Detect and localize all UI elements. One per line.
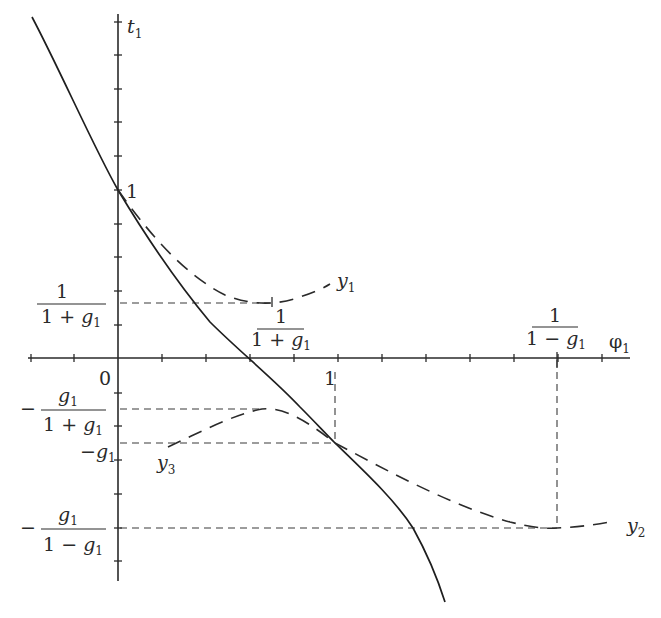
label-neg-g: −g1 — [80, 440, 116, 465]
y-unit-label: 1 — [126, 180, 138, 202]
curve-label-y2: y2 — [626, 514, 645, 540]
curve-t1-solid — [32, 17, 445, 602]
label-one-over-one-plus-g-left: 1 1 + g1 — [37, 280, 106, 330]
svg-text:g1: g1 — [58, 384, 78, 409]
svg-text:1 − g1: 1 − g1 — [526, 327, 586, 352]
svg-text:g1: g1 — [58, 503, 78, 528]
svg-text:−g1: −g1 — [80, 440, 116, 465]
svg-text:−: − — [20, 397, 36, 419]
svg-text:1: 1 — [275, 305, 287, 327]
origin-label: 0 — [99, 367, 111, 389]
svg-text:1 + g1: 1 + g1 — [251, 328, 311, 353]
svg-text:1 + g1: 1 + g1 — [41, 305, 101, 330]
x-unit-label: 1 — [324, 367, 336, 389]
label-neg-g-over-one-minus-g: − g1 1 − g1 — [20, 503, 106, 558]
label-one-over-one-minus-g-x: 1 1 − g1 — [526, 304, 586, 352]
curve-y3-dashed — [168, 409, 335, 447]
curve-label-y3: y3 — [156, 451, 175, 477]
svg-text:−: − — [20, 516, 36, 538]
svg-text:1 + g1: 1 + g1 — [43, 413, 103, 438]
svg-text:1: 1 — [56, 280, 68, 302]
y-axis-label: t1 — [127, 15, 142, 41]
label-neg-g-over-one-plus-g: − g1 1 + g1 — [20, 384, 106, 438]
curve-label-y1: y1 — [336, 269, 355, 295]
svg-text:1: 1 — [549, 304, 561, 326]
curve-y2-dashed — [335, 443, 615, 528]
axes — [28, 14, 630, 581]
function-plot: t1 φ1 0 1 1 1 1 + g1 − g1 1 + g1 −g1 − g… — [0, 0, 661, 618]
label-one-over-one-plus-g-x: 1 1 + g1 — [251, 305, 311, 353]
guide-lines — [120, 303, 557, 528]
x-axis-label: φ1 — [609, 330, 630, 356]
svg-text:1 − g1: 1 − g1 — [43, 533, 103, 558]
curve-y1-dashed — [118, 190, 330, 303]
